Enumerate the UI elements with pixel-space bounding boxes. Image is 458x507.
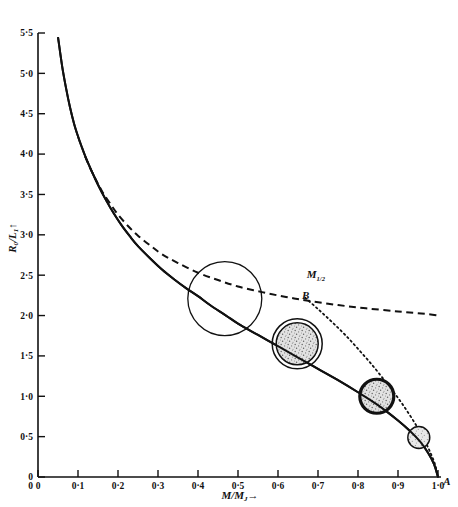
circle-stippled-double-ring <box>272 319 322 369</box>
x-tick-label: 0·7 <box>312 481 325 491</box>
y-tick-label: 4·0 <box>20 149 33 159</box>
x-tick-label: 0·9 <box>392 481 405 491</box>
y-tick-label: 3·5 <box>20 190 33 200</box>
x-tick-label: 0 <box>36 481 41 491</box>
x-axis-title: M/MJ→ <box>220 489 258 503</box>
y-tick-label: 5·0 <box>20 69 33 79</box>
x-tick-label: 0·4 <box>192 481 205 491</box>
annotation-point-a-text: A <box>442 475 450 487</box>
y-axis-title-arrow: ↑ <box>6 223 18 229</box>
x-tick-label: 0·3 <box>152 481 165 491</box>
y-tick-label: 2·5 <box>20 271 33 281</box>
svg-text:R0/L1↑: R0/L1↑ <box>6 223 20 254</box>
x-tick-label: 0·6 <box>272 481 285 491</box>
y-tick-label: 2·0 <box>20 311 33 321</box>
x-axis-title-arrow: → <box>248 489 259 501</box>
x-tick-label: 0·8 <box>352 481 365 491</box>
y-tick-label: 1·0 <box>20 392 33 402</box>
x-tick-label: 0·2 <box>112 481 125 491</box>
y-tick-label: 3·0 <box>20 230 33 240</box>
annotation-point-b-text: B <box>301 289 309 301</box>
y-tick-label: 0·5 <box>20 432 33 442</box>
y-axis-title: R0/L1↑ <box>6 223 20 254</box>
annotation-point-a: A <box>442 475 450 487</box>
svg-text:M/MJ→: M/MJ→ <box>220 489 258 503</box>
marker-inner-ring <box>276 323 318 365</box>
annotation-m-half-sub: 1/2 <box>317 275 326 282</box>
origin-label: 0 <box>28 481 33 491</box>
marker-ring <box>408 426 430 448</box>
circle-small <box>408 426 430 448</box>
annotation-point-b: B <box>301 289 309 301</box>
x-tick-label: 0·1 <box>72 481 85 491</box>
y-tick-label: 1·5 <box>20 351 33 361</box>
y-tick-label: 5·5 <box>20 28 33 38</box>
chart-background <box>0 0 458 507</box>
x-axis-title-text: M/M <box>220 489 245 501</box>
chart-figure: 00·51·01·52·02·53·03·54·04·55·05·5 00·10… <box>0 0 458 507</box>
y-axis-title-numerator: R <box>6 245 18 253</box>
y-tick-label: 4·5 <box>20 109 33 119</box>
